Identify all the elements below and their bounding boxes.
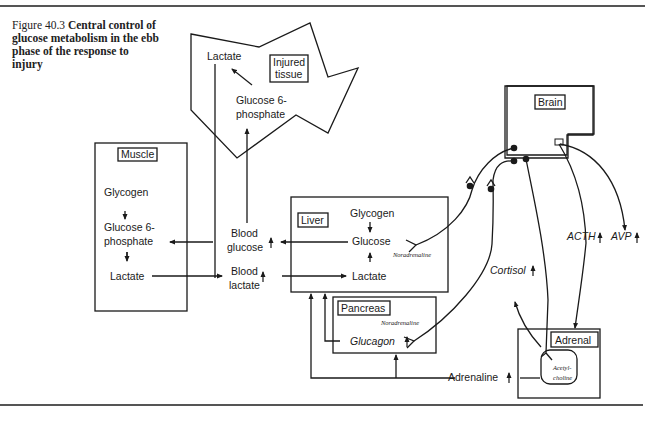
ganglion-dot xyxy=(488,186,495,193)
pancreas-label: Pancreas xyxy=(341,302,385,314)
muscle-label: Muscle xyxy=(121,148,154,160)
adrenal-label: Adrenal xyxy=(555,334,591,346)
muscle-lactate: Lactate xyxy=(110,270,145,282)
brain-label: Brain xyxy=(538,96,563,108)
liver-lactate: Lactate xyxy=(352,270,387,282)
muscle-g6p-line1: Glucose 6- xyxy=(104,221,155,233)
glucose-control-diagram: Injured tissue Lactate Glucose 6- phosph… xyxy=(0,0,656,421)
blood-lactate-line2: lactate xyxy=(229,279,260,291)
blood-glucose-line2: glucose xyxy=(227,241,263,253)
ganglion-dot xyxy=(467,183,474,190)
avp-label: AVP xyxy=(610,230,631,242)
pancreas-noradrenaline: Noradrenaline xyxy=(380,319,419,326)
brain-neuron-dot xyxy=(523,156,530,163)
tissue-g6p-line2: phosphate xyxy=(236,108,285,120)
nerve-to-adrenal xyxy=(526,159,548,357)
muscle-glycogen: Glycogen xyxy=(104,186,149,198)
tissue-label-line1: Injured xyxy=(273,56,305,68)
adrenal-acetylcholine-line2: choline xyxy=(553,374,572,381)
liver-noradrenaline: Noradrenaline xyxy=(392,251,431,258)
blood-lactate-line1: Blood xyxy=(231,265,258,277)
liver-glucose: Glucose xyxy=(352,235,391,247)
tissue-label-line2: tissue xyxy=(275,68,303,80)
adrenaline-label: Adrenaline xyxy=(448,371,498,383)
tissue-g6p-line1: Glucose 6- xyxy=(236,94,287,106)
adrenal-acetylcholine-line1: Acetyl- xyxy=(552,364,571,371)
brain-neuron-dot xyxy=(511,158,518,165)
pancreas-glucagon: Glucagon xyxy=(350,335,395,347)
acth-label: ACTH xyxy=(566,230,596,242)
blood-glucose-line1: Blood xyxy=(231,227,258,239)
brain-neuron-dot xyxy=(511,145,518,152)
liver-glycogen: Glycogen xyxy=(350,207,395,219)
muscle-g6p-line2: phosphate xyxy=(104,235,153,247)
injured-tissue-shape xyxy=(191,23,358,158)
tissue-lactate: Lactate xyxy=(207,50,242,62)
cortisol-label: Cortisol xyxy=(490,264,526,276)
liver-label: Liver xyxy=(301,214,324,226)
